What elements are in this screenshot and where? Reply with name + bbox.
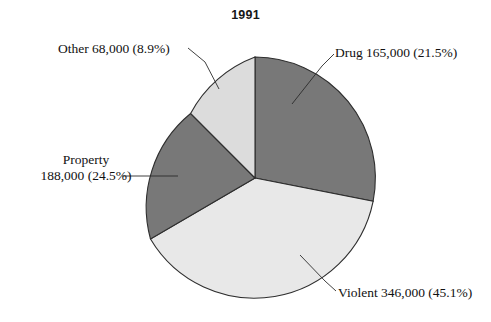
pie-label-property-line1: Property bbox=[22, 152, 150, 168]
pie-slice-drug[interactable] bbox=[255, 57, 375, 201]
pie-label-other: Other 68,000 (8.9%) bbox=[58, 41, 170, 57]
pie-label-property-line2: 188,000 (24.5%) bbox=[22, 168, 150, 184]
pie-chart-figure: 1991 Other 68,000 (8.9%) Drug 165,000 (2… bbox=[0, 0, 491, 322]
pie-label-property: Property 188,000 (24.5%) bbox=[22, 152, 150, 183]
pie-label-violent: Violent 346,000 (45.1%) bbox=[338, 285, 472, 301]
pie-label-drug: Drug 165,000 (21.5%) bbox=[335, 45, 457, 61]
